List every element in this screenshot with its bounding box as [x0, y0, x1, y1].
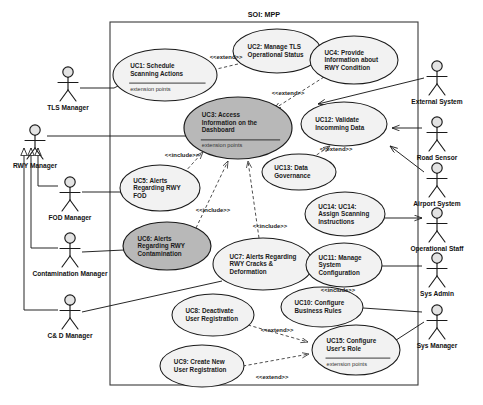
usecase-label-uc5-line0: UC5: Alerts	[133, 177, 168, 184]
actor-external-system[interactable]: External System	[411, 61, 462, 106]
assoc-contamination-manager-uc6	[82, 250, 124, 252]
actor-label-sys-manager: Sys Manager	[417, 342, 458, 350]
actor-leg-right-icon	[437, 140, 445, 151]
stereotype-inc-uc10-uc11: <<include>>	[321, 287, 356, 293]
uml-use-case-diagram: SOI: MPP	[0, 0, 483, 405]
actor-cd-manager[interactable]: C& D Manager	[47, 295, 92, 340]
actor-label-operational-staff: Operational Staff	[410, 245, 464, 253]
usecase-uc5[interactable]: UC5: AlertsRegarding RWYFOD	[120, 165, 200, 211]
stereotype-ext-uc13-uc12: <<extend>>	[320, 146, 353, 152]
stereotype-ext-uc4-uc3: <<extend>>	[272, 90, 305, 96]
usecase-uc3[interactable]: UC3: AccessInformation on theDashboardex…	[184, 97, 292, 159]
usecase-uc7[interactable]: UC7: Alerts RegardingRWY Cracks &Deforma…	[213, 238, 313, 290]
actor-leg-right-icon	[35, 148, 43, 159]
actor-leg-left-icon	[62, 318, 70, 329]
usecase-uc11[interactable]: UC11: ManageSystemConfiguration	[306, 243, 382, 287]
usecase-uc14[interactable]: UC14: UC14:Assign ScanningInstructions	[305, 192, 385, 236]
usecase-label-uc1-line0: UC1: Schedule	[130, 62, 175, 69]
actor-leg-right-icon	[70, 256, 78, 267]
usecase-label-uc14-line0: UC14: UC14:	[318, 203, 356, 210]
actor-leg-right-icon	[70, 318, 78, 329]
stereotype-inc-uc7-uc3: <<include>>	[253, 223, 288, 229]
usecase-uc1[interactable]: UC1: ScheduleScanning Actionsextension p…	[113, 49, 217, 101]
usecase-label-uc11-line2: Configuration	[319, 269, 360, 277]
stereotype-ext-uc2-uc1: <<extend>>	[210, 54, 243, 60]
usecase-layer: UC1: ScheduleScanning Actionsextension p…	[113, 29, 400, 387]
actor-label-contamination-manager: Contamination Manager	[32, 270, 108, 278]
assoc-sys-manager-uc10	[363, 308, 422, 312]
actor-fod-manager[interactable]: FOD Manager	[49, 177, 92, 222]
actor-sys-manager[interactable]: Sys Manager	[417, 305, 458, 350]
actor-leg-left-icon	[429, 84, 437, 95]
actor-head-icon	[432, 61, 442, 71]
usecase-label-uc12-line1: Incomming Data	[315, 124, 364, 132]
stereotype-inc-uc6-uc3: <<include>>	[196, 207, 231, 213]
actor-road-sensor[interactable]: Road Sensor	[417, 117, 458, 161]
actor-leg-right-icon	[437, 328, 445, 339]
usecase-label-uc3-line1: Information on the	[202, 119, 258, 126]
usecase-extension-points-uc15: extension points	[327, 361, 368, 367]
usecase-label-uc3-line0: UC3: Access	[202, 111, 241, 118]
usecase-label-uc3-line2: Dashboard	[202, 126, 235, 133]
usecase-label-uc13-line1: Governance	[274, 172, 311, 179]
actor-sys-admin[interactable]: Sys Admin	[420, 253, 454, 298]
usecase-uc10[interactable]: UC10: ConfigureBusiness Rules	[281, 287, 363, 327]
actor-label-road-sensor: Road Sensor	[417, 154, 458, 161]
usecase-label-uc4-line1: Information about	[325, 56, 379, 63]
generalization-links	[24, 148, 58, 310]
actor-tls-manager[interactable]: TLS Manager	[47, 67, 89, 112]
usecase-label-uc7-line1: RWY Cracks &	[230, 260, 274, 267]
usecase-label-uc13-line0: UC13: Data	[274, 164, 308, 171]
usecase-label-uc6-line2: Contamination	[138, 250, 182, 257]
dep-uc6-include-uc3	[196, 161, 228, 228]
actor-leg-left-icon	[429, 186, 437, 197]
system-boundary-title: SOI: MPP	[248, 10, 281, 19]
usecase-label-uc7-line2: Deformation	[230, 268, 267, 275]
usecase-uc15[interactable]: UC15: ConfigureUser's Roleextension poin…	[312, 325, 400, 375]
usecase-uc8[interactable]: UC8: DeactivateUser Registration	[172, 294, 254, 336]
actor-head-icon	[30, 125, 40, 135]
actor-head-icon	[65, 233, 75, 243]
actor-rwy-manager[interactable]: RWY Manager	[13, 125, 58, 170]
usecase-uc13[interactable]: UC13: DataGovernance	[262, 154, 336, 190]
actor-label-airport-system: Airport System	[413, 200, 460, 208]
actor-head-icon	[432, 305, 442, 315]
usecase-uc6[interactable]: UC6: AlertsRegarding RWYContamination	[123, 222, 211, 270]
actor-label-external-system: External System	[411, 98, 462, 106]
actor-leg-left-icon	[62, 200, 70, 211]
usecase-label-uc6-line0: UC6: Alerts	[138, 235, 173, 242]
usecase-label-uc9-line1: User Registration	[174, 366, 227, 374]
actor-leg-left-icon	[429, 276, 437, 287]
usecase-label-uc9-line0: UC9: Create New	[174, 358, 225, 365]
usecase-label-uc4-line0: UC4: Provide	[325, 49, 365, 56]
actor-leg-left-icon	[60, 90, 68, 101]
usecase-label-uc15-line1: User's Role	[327, 345, 362, 352]
stereotype-ext-uc9-uc15: <<extend>>	[256, 374, 289, 380]
actor-label-tls-manager: TLS Manager	[47, 104, 89, 112]
actor-label-fod-manager: FOD Manager	[49, 214, 92, 222]
actor-contamination-manager[interactable]: Contamination Manager	[32, 233, 108, 278]
usecase-uc2[interactable]: UC2: Manage TLSOperational Status	[233, 29, 321, 73]
usecase-uc4[interactable]: UC4: ProvideInformation aboutRWY Conditi…	[310, 36, 398, 84]
actor-head-icon	[432, 117, 442, 127]
actor-head-icon	[65, 177, 75, 187]
actor-head-icon	[65, 295, 75, 305]
actor-leg-right-icon	[70, 200, 78, 211]
usecase-label-uc14-line2: Instructions	[318, 218, 355, 225]
actor-leg-right-icon	[437, 276, 445, 287]
usecase-label-uc8-line0: UC8: Deactivate	[186, 307, 234, 314]
usecase-uc12[interactable]: UC12: ValidateIncomming Data	[301, 102, 387, 146]
gen-cd-to-rwy	[24, 148, 58, 310]
usecase-label-uc8-line1: User Registration	[186, 315, 239, 323]
stereotype-inc-uc5-uc3: <<include>>	[165, 152, 200, 158]
usecase-ellipse-uc11[interactable]	[306, 243, 382, 287]
actor-leg-left-icon	[429, 140, 437, 151]
actor-label-rwy-manager: RWY Manager	[13, 162, 58, 170]
stereotype-ext-uc8-uc15: <<extend>>	[261, 327, 294, 333]
actor-leg-right-icon	[437, 231, 445, 242]
usecase-extension-points-uc3: extension points	[202, 142, 243, 148]
actor-head-icon	[432, 163, 442, 173]
usecase-uc9[interactable]: UC9: Create NewUser Registration	[160, 345, 244, 387]
usecase-ellipse-uc3[interactable]	[184, 97, 292, 159]
usecase-label-uc1-line1: Scanning Actions	[130, 70, 183, 78]
